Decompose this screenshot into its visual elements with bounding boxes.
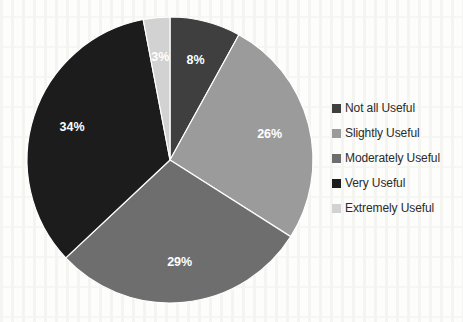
legend-color-swatch-icon	[332, 179, 341, 188]
legend-item-label: Moderately Useful	[345, 151, 440, 165]
legend-color-swatch-icon	[332, 129, 341, 138]
chart-legend: Not all UsefulSlightly UsefulModerately …	[332, 97, 460, 222]
pie-slice-value-label: 8%	[187, 53, 205, 67]
legend-color-swatch-icon	[332, 154, 341, 163]
legend-item[interactable]: Slightly Useful	[332, 122, 460, 144]
legend-item[interactable]: Not all Useful	[332, 97, 460, 119]
pie-svg: 8%26%29%34%3%	[0, 0, 340, 322]
legend-item-label: Very Useful	[345, 176, 405, 190]
pie-plot-area: 8%26%29%34%3%	[0, 0, 340, 322]
legend-color-swatch-icon	[332, 104, 341, 113]
legend-color-swatch-icon	[332, 204, 341, 213]
legend-item-label: Not all Useful	[345, 101, 415, 115]
pie-slice-value-label: 26%	[257, 127, 282, 141]
legend-item-label: Extremely Useful	[345, 201, 434, 215]
legend-item[interactable]: Extremely Useful	[332, 197, 460, 219]
pie-slice-value-label: 3%	[151, 50, 169, 64]
legend-item[interactable]: Very Useful	[332, 172, 460, 194]
pie-slice-value-label: 29%	[167, 255, 192, 269]
legend-item-label: Slightly Useful	[345, 126, 420, 140]
pie-chart-figure: 8%26%29%34%3% Not all UsefulSlightly Use…	[0, 0, 463, 322]
legend-item[interactable]: Moderately Useful	[332, 147, 460, 169]
pie-slice-value-label: 34%	[60, 120, 85, 134]
